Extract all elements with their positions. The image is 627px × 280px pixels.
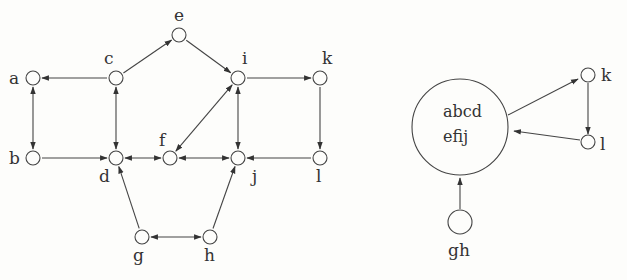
node-k: [313, 71, 327, 85]
node-l-condensed: [581, 135, 595, 149]
node-f: [163, 151, 177, 165]
node-abcdefij-label-line1: abcd: [443, 102, 482, 121]
scc-diagram: abcdefijklgh abcd efij k l gh: [0, 0, 627, 280]
condensed-graph: abcd efij k l gh: [412, 65, 612, 260]
node-l-label: l: [316, 166, 321, 186]
edge-h-j: [213, 166, 235, 228]
node-gh-label: gh: [448, 240, 470, 260]
edge-l-to-abcdefij: [514, 131, 580, 140]
node-gh: [448, 210, 472, 234]
node-d: [109, 151, 123, 165]
node-k-condensed: [581, 68, 595, 82]
node-k-label: k: [322, 48, 333, 68]
edge-abcdefij-to-k: [508, 79, 578, 115]
node-e-label: e: [174, 5, 184, 25]
edge-i-f: [176, 85, 232, 151]
node-k-condensed-label: k: [601, 65, 612, 85]
node-e: [172, 28, 186, 42]
edge-g-d: [119, 167, 139, 229]
edge-e-i: [186, 40, 230, 72]
left-graph-nodes: abcdefijklgh: [9, 5, 333, 265]
node-j: [231, 151, 245, 165]
node-g: [135, 230, 149, 244]
node-g-label: g: [133, 245, 144, 265]
node-a: [26, 71, 40, 85]
node-j-label: j: [250, 166, 257, 186]
node-i: [231, 71, 245, 85]
node-b: [26, 151, 40, 165]
node-d-label: d: [99, 166, 110, 186]
node-f-label: f: [159, 130, 167, 150]
node-h: [203, 230, 217, 244]
edge-c-e: [123, 40, 171, 73]
node-l-condensed-label: l: [600, 134, 605, 154]
node-i-label: i: [242, 48, 248, 68]
node-l: [313, 151, 327, 165]
node-b-label: b: [9, 148, 20, 168]
node-c-label: c: [104, 48, 114, 68]
node-c: [109, 71, 123, 85]
left-graph-edges: [33, 40, 320, 237]
node-h-label: h: [204, 245, 215, 265]
node-a-label: a: [9, 68, 19, 88]
node-abcdefij-label-line2: efij: [443, 127, 468, 146]
